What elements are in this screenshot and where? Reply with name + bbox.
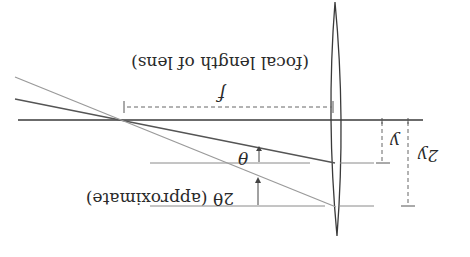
theta-label: θ bbox=[238, 148, 248, 168]
lens bbox=[331, 2, 341, 236]
y-label: y bbox=[390, 132, 401, 152]
focal-length-caption: (focal length of lens) bbox=[131, 53, 309, 73]
two-theta-arrowhead bbox=[255, 177, 261, 183]
two-theta-label: 2θ (approximate) bbox=[86, 189, 234, 209]
ray-y bbox=[15, 99, 335, 163]
two-y-label: 2y bbox=[417, 146, 439, 166]
focal-length-symbol: f bbox=[215, 84, 227, 105]
lens-focal-diagram: f (focal length of lens) θ 2θ (approxima… bbox=[0, 0, 470, 257]
ray-2y bbox=[15, 77, 336, 207]
